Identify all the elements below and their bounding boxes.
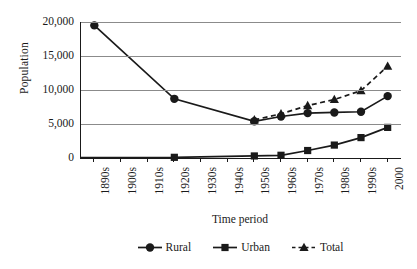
y-tick-label: 5,000 [16, 118, 74, 129]
legend-item-rural[interactable]: Rural [137, 241, 192, 253]
square-marker [331, 141, 338, 148]
x-tick-mark [387, 158, 388, 162]
triangle-marker [291, 242, 317, 253]
x-tick-mark [360, 158, 361, 162]
circle-marker [303, 109, 311, 117]
gridline [81, 22, 401, 23]
square-marker [357, 134, 364, 141]
legend-label: Total [320, 241, 343, 253]
y-tick-label: 20,000 [16, 16, 74, 27]
y-tick-label: 0 [16, 152, 74, 163]
x-tick-mark [227, 158, 228, 162]
square-marker [304, 147, 311, 154]
x-tick-mark [307, 158, 308, 162]
x-tick-mark [253, 158, 254, 162]
x-tick-mark [200, 158, 201, 162]
series-line [254, 66, 387, 120]
circle-marker [145, 243, 153, 251]
legend-item-total[interactable]: Total [291, 241, 343, 253]
x-axis-tick-labels: 1890s1900s1910s1920s1930s1940s1950s1960s… [80, 158, 400, 218]
legend-item-urban[interactable]: Urban [212, 241, 270, 253]
x-tick-mark [120, 158, 121, 162]
y-tick-label: 15,000 [16, 50, 74, 61]
x-axis-title: Time period [80, 213, 400, 225]
x-tick-mark [93, 158, 94, 162]
series-total [250, 61, 393, 123]
circle-marker [330, 108, 338, 116]
x-tick-mark [280, 158, 281, 162]
circle-marker [383, 92, 391, 100]
legend-label: Rural [166, 241, 192, 253]
triangle-marker [303, 101, 312, 109]
gridline [81, 56, 401, 57]
x-tick-mark [173, 158, 174, 162]
x-tick-mark [147, 158, 148, 162]
circle-marker [137, 242, 163, 253]
triangle-marker [276, 109, 285, 117]
plot-area [80, 22, 401, 159]
x-tick-mark [333, 158, 334, 162]
square-marker [222, 243, 229, 250]
triangle-marker [383, 61, 392, 69]
y-tick-label: 10,000 [16, 84, 74, 95]
gridline [81, 90, 401, 91]
chart-legend: RuralUrbanTotal [80, 236, 400, 258]
series-line [94, 25, 387, 121]
square-marker [212, 242, 238, 253]
circle-marker [357, 108, 365, 116]
gridline [81, 124, 401, 125]
series-urban [171, 124, 392, 161]
series-rural [90, 21, 392, 125]
legend-label: Urban [241, 241, 270, 253]
population-time-period-chart: Population 05,00010,00015,00020,000 1890… [0, 0, 417, 269]
y-axis-tick-labels: 05,00010,00015,00020,000 [16, 0, 74, 269]
circle-marker [170, 95, 178, 103]
